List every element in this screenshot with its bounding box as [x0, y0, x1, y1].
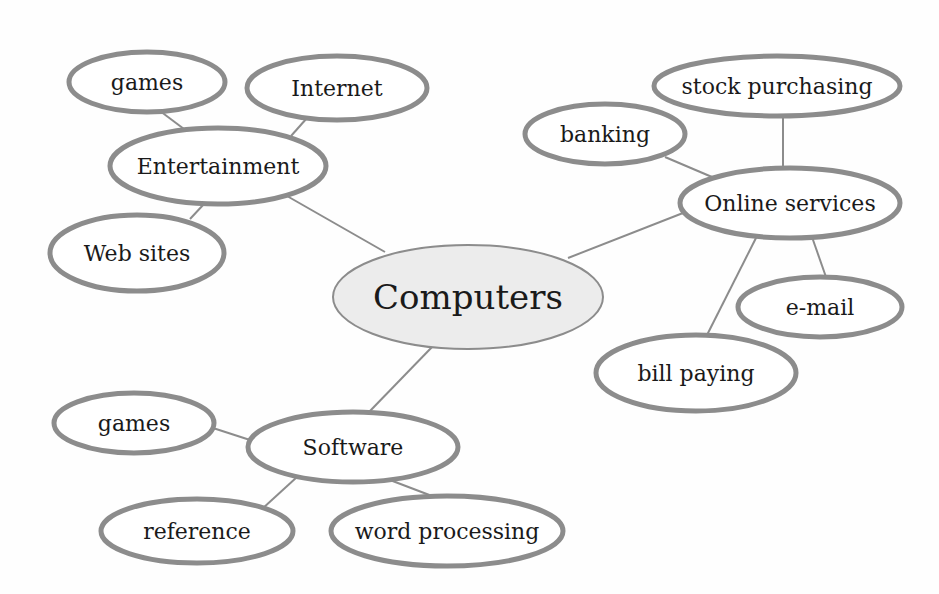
node-label: word processing [355, 519, 540, 544]
node-label: Software [303, 435, 404, 460]
node-games-ent: games [69, 52, 225, 112]
node-software: Software [248, 412, 458, 482]
node-label: games [98, 411, 170, 436]
edge-computers-online-services [568, 213, 683, 258]
node-stock-purchasing: stock purchasing [654, 56, 900, 116]
node-e-mail: e-mail [738, 277, 902, 337]
mind-map-diagram: ComputersEntertainmentgamesInternetWeb s… [0, 0, 939, 594]
edge-software-games-sw [213, 428, 250, 440]
nodes-layer: ComputersEntertainmentgamesInternetWeb s… [50, 52, 902, 566]
node-label: bill paying [637, 361, 754, 386]
node-entertainment: Entertainment [110, 128, 326, 204]
node-computers: Computers [333, 245, 603, 349]
edge-entertainment-web-sites [190, 204, 204, 219]
edge-computers-entertainment [287, 196, 385, 252]
node-reference: reference [101, 499, 293, 563]
node-word-processing: word processing [331, 496, 563, 566]
edge-online-services-banking [665, 157, 712, 177]
edge-software-reference [262, 477, 297, 509]
edge-entertainment-internet [291, 118, 307, 136]
node-bill-paying: bill paying [596, 335, 796, 411]
node-label: Web sites [84, 241, 190, 266]
edge-online-services-e-mail [812, 237, 826, 277]
edge-computers-software [370, 346, 433, 411]
mind-map-canvas: ComputersEntertainmentgamesInternetWeb s… [0, 0, 939, 594]
node-online-services: Online services [680, 168, 900, 238]
node-label: Entertainment [137, 154, 300, 179]
node-banking: banking [525, 104, 685, 164]
node-internet: Internet [247, 56, 427, 120]
edge-software-word-processing [390, 480, 432, 496]
node-label: Online services [704, 191, 875, 216]
node-label: Internet [291, 76, 382, 101]
node-games-sw: games [54, 393, 214, 453]
node-label: games [111, 70, 183, 95]
node-label: banking [560, 122, 650, 147]
node-web-sites: Web sites [50, 215, 224, 291]
node-label: stock purchasing [682, 74, 873, 99]
node-label: Computers [373, 277, 563, 317]
node-label: e-mail [786, 295, 855, 320]
node-label: reference [143, 519, 251, 544]
